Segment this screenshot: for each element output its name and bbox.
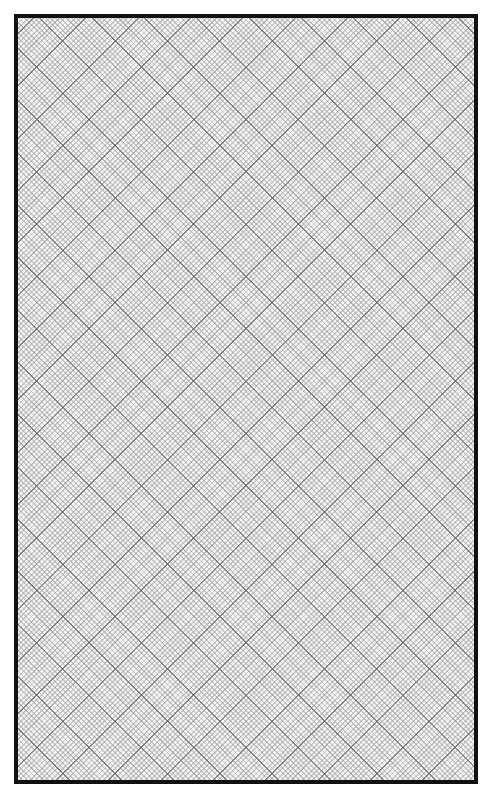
diagonal-grid-paper: [14, 14, 478, 784]
page: [0, 0, 490, 800]
